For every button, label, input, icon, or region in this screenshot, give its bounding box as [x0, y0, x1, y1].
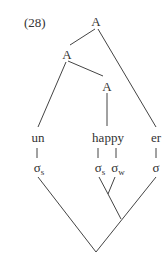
sigma: σ — [95, 160, 102, 175]
subscript: s — [41, 167, 45, 177]
sigma: σ — [152, 160, 159, 175]
sigma: σ — [34, 160, 41, 175]
morpheme-happy: happy — [92, 131, 124, 144]
syllable-er: σ — [152, 161, 159, 179]
subscript: w — [118, 167, 125, 177]
morpheme-er: er — [151, 131, 161, 144]
left-node-label: A — [62, 48, 71, 61]
morpheme-un: un — [32, 131, 45, 144]
syllable-py: σw — [111, 161, 125, 179]
syllable-hap: σs — [95, 161, 106, 179]
inner-node-label: A — [102, 80, 111, 93]
sigma: σ — [111, 160, 118, 175]
example-number: (28) — [24, 16, 46, 29]
root-node-label: A — [91, 15, 100, 28]
syllable-un: σs — [34, 161, 45, 179]
subscript: s — [102, 167, 106, 177]
tree-lines — [0, 0, 166, 263]
